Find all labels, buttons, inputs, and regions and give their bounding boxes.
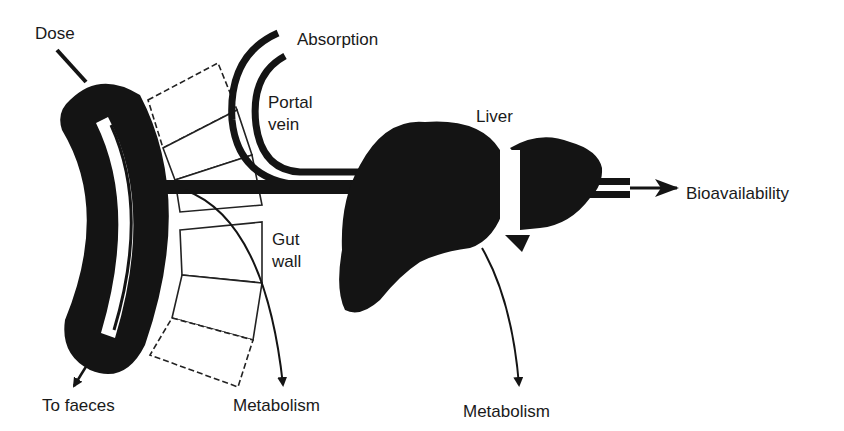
label-to-faeces: To faeces xyxy=(42,396,115,416)
label-bioavailability: Bioavailability xyxy=(686,184,789,204)
dose-arrow xyxy=(57,50,86,82)
to-faeces-arrow xyxy=(74,365,87,386)
label-portal-vein: Portal vein xyxy=(268,92,312,136)
gut-tube xyxy=(60,84,169,374)
label-gut-wall-line1: Gut xyxy=(272,229,301,251)
label-metabolism-gut: Metabolism xyxy=(233,396,320,416)
label-liver: Liver xyxy=(476,107,513,127)
label-portal-vein-line1: Portal xyxy=(268,92,312,114)
label-metabolism-liver: Metabolism xyxy=(463,402,550,422)
label-gut-wall-line2: wall xyxy=(272,251,301,273)
liver-metabolism-arrow xyxy=(482,248,519,385)
label-absorption: Absorption xyxy=(297,30,378,50)
bioavailability-diagram: Dose Absorption Portal vein Liver Bioava… xyxy=(0,0,844,431)
label-gut-wall: Gut wall xyxy=(272,229,301,273)
liver-shape xyxy=(339,122,602,313)
label-dose: Dose xyxy=(35,24,75,44)
label-portal-vein-line2: vein xyxy=(268,114,312,136)
